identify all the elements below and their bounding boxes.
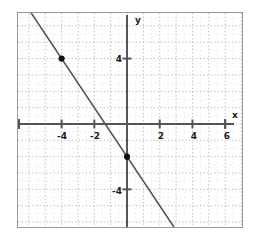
data-layer	[18, 13, 242, 227]
plot-area: -4-22461284-4-812xy	[17, 12, 243, 228]
data-point	[124, 154, 130, 160]
graph-figure: -4-22461284-4-812xy	[0, 0, 260, 238]
data-line	[18, 13, 242, 227]
data-point	[59, 56, 65, 62]
